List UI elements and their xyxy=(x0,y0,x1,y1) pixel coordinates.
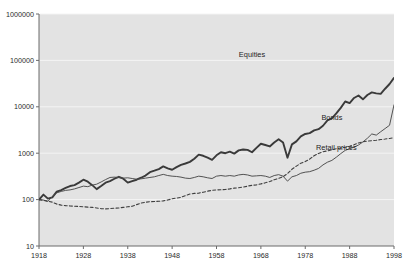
y-tick-label: 1000 xyxy=(18,149,34,158)
x-tick-label: 1948 xyxy=(164,251,180,260)
x-tick-label: 1918 xyxy=(31,251,47,260)
y-tick-label: 10000 xyxy=(14,102,34,111)
annotation-equities: Equities xyxy=(239,50,266,59)
x-tick-label: 1998 xyxy=(386,251,402,260)
plot-area-background xyxy=(39,14,394,246)
y-tick-label: 1000000 xyxy=(6,10,34,19)
index-growth-line-chart: 101001000100001000001000000 191819281938… xyxy=(0,0,414,270)
x-tick-label: 1988 xyxy=(342,251,358,260)
x-tick-label: 1938 xyxy=(120,251,136,260)
annotation-bonds: Bonds xyxy=(321,113,342,122)
y-tick-label: 100 xyxy=(22,195,34,204)
x-tick-label: 1958 xyxy=(209,251,225,260)
y-tick-label: 100000 xyxy=(10,56,34,65)
x-tick-label: 1978 xyxy=(297,251,313,260)
x-tick-label: 1968 xyxy=(253,251,269,260)
annotation-retail-prices: Retail prices xyxy=(316,143,357,152)
y-tick-label: 10 xyxy=(26,242,34,251)
x-tick-label: 1928 xyxy=(75,251,91,260)
chart-container: 101001000100001000001000000 191819281938… xyxy=(0,0,414,270)
